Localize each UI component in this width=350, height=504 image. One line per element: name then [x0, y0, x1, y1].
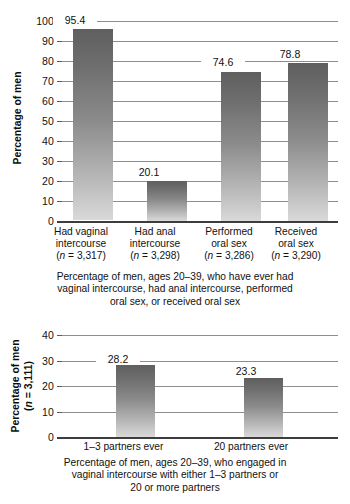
category-line-1: Received	[275, 226, 317, 237]
bottom-chart-ytick-label: 40	[26, 330, 54, 341]
category-line-2: intercourse	[130, 238, 180, 249]
caption-line-2: vaginal intercourse, had anal intercours…	[57, 283, 293, 294]
category-sample-size: (n = 3,286)	[204, 250, 254, 261]
top-chart-ytick-label: 30	[26, 156, 54, 167]
category-sample-size: (n = 3,317)	[56, 250, 106, 261]
top-chart-bar-value: 20.1	[127, 167, 171, 178]
caption-line-3: oral sex, or received oral sex	[110, 296, 240, 307]
caption-line-1: Percentage of men, ages 20–39, who engag…	[64, 457, 287, 468]
top-chart-bar	[288, 63, 328, 221]
top-chart-category-label: Received oral sex (n = 3,290)	[258, 226, 334, 263]
top-chart-ytick-label: 20	[26, 176, 54, 187]
category-line-2: oral sex	[211, 238, 247, 249]
category-line-1: Had vaginal	[54, 226, 108, 237]
top-chart-bar	[221, 72, 261, 221]
top-chart-bar-value: 95.4	[53, 15, 97, 26]
bottom-chart-x-axis-line	[57, 437, 338, 439]
bottom-chart-gridline	[62, 335, 338, 336]
bottom-chart-bar-value: 28.2	[96, 354, 140, 365]
caption-line-1: Percentage of men, ages 20–39, who have …	[57, 271, 294, 282]
bottom-chart-category-label: 1–3 partners ever	[66, 441, 181, 453]
bottom-chart-ytick-label: 20	[26, 381, 54, 392]
top-chart-ytick-label: 50	[26, 116, 54, 127]
top-chart-bar	[73, 29, 113, 220]
bottom-chart-bar	[116, 365, 155, 437]
top-chart-ytick-label: 100	[26, 16, 54, 27]
top-chart-category-label: Had anal intercourse (n = 3,298)	[117, 226, 193, 263]
bottom-chart-gridline	[62, 386, 338, 387]
bottom-chart: Percentage of men (n = 3,111) 40 30 20 1…	[0, 325, 350, 504]
bottom-chart-ytick-label: 0	[26, 432, 54, 443]
category-line-2: oral sex	[278, 238, 314, 249]
top-chart: Percentage of men 100 90 80 70 60 50 40 …	[0, 0, 350, 305]
top-chart-bar	[147, 181, 187, 221]
top-chart-ytick-label: 60	[26, 96, 54, 107]
bottom-chart-caption: Percentage of men, ages 20–39, who engag…	[40, 457, 310, 494]
category-line-1: Performed	[205, 226, 253, 237]
category-line-1: Had anal	[135, 226, 176, 237]
bottom-chart-gridline	[62, 412, 338, 413]
figure-root: Percentage of men 100 90 80 70 60 50 40 …	[0, 0, 350, 504]
bottom-chart-plot-area	[62, 335, 338, 437]
top-chart-caption: Percentage of men, ages 20–39, who have …	[40, 271, 310, 308]
top-chart-ytick-label: 0	[26, 216, 54, 227]
top-chart-bar-value: 74.6	[201, 57, 245, 68]
top-chart-ytick-label: 80	[26, 56, 54, 67]
top-chart-ytick-label: 70	[26, 76, 54, 87]
bottom-chart-bar	[244, 378, 283, 437]
top-chart-y-axis-title: Percentage of men	[12, 63, 24, 173]
bottom-chart-ytick-label: 10	[26, 407, 54, 418]
bottom-chart-ytick-label: 30	[26, 356, 54, 367]
top-chart-gridline	[62, 21, 338, 22]
category-sample-size: (n = 3,298)	[130, 250, 180, 261]
y-axis-title-line-1: Percentage of men	[10, 340, 21, 433]
top-chart-x-axis-line	[57, 221, 338, 223]
top-chart-ytick-label: 40	[26, 136, 54, 147]
bottom-chart-bar-value: 23.3	[224, 366, 268, 377]
top-chart-category-label: Performed oral sex (n = 3,286)	[191, 226, 267, 263]
bottom-chart-category-label: 20 partners ever	[196, 441, 306, 453]
category-sample-size: (n = 3,290)	[271, 250, 321, 261]
top-chart-ytick-label: 90	[26, 36, 54, 47]
category-line-2: intercourse	[56, 238, 106, 249]
top-chart-bar-value: 78.8	[268, 49, 312, 60]
caption-line-2: vaginal intercourse with either 1–3 part…	[72, 469, 279, 480]
top-chart-category-label: Had vaginal intercourse (n = 3,317)	[43, 226, 119, 263]
top-chart-ytick-label: 10	[26, 196, 54, 207]
caption-line-3: 20 or more partners	[130, 482, 219, 493]
